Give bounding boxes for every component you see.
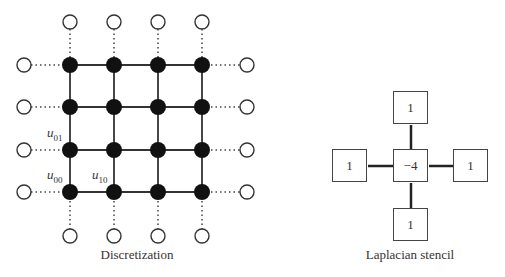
interior-node: [106, 184, 122, 200]
stencil-left: 1: [332, 149, 367, 182]
discretization-caption: Discretization: [101, 247, 174, 263]
boundary-node: [195, 229, 209, 243]
boundary-node: [151, 15, 165, 29]
boundary-node: [151, 229, 165, 243]
interior-node: [62, 99, 78, 115]
stencil-caption: Laplacian stencil: [366, 247, 454, 263]
boundary-node: [17, 100, 31, 114]
boundary-node: [17, 58, 31, 72]
interior-node: [106, 142, 122, 158]
diagram-canvas: [0, 0, 505, 277]
stencil-center: −4: [393, 149, 428, 182]
interior-node: [150, 142, 166, 158]
interior-node: [106, 57, 122, 73]
stencil-top: 1: [393, 91, 428, 124]
boundary-node: [107, 15, 121, 29]
boundary-node: [195, 15, 209, 29]
boundary-node: [240, 58, 254, 72]
interior-node: [62, 184, 78, 200]
label-u01: u01: [47, 125, 63, 143]
interior-node: [150, 184, 166, 200]
boundary-node: [63, 229, 77, 243]
boundary-node: [240, 185, 254, 199]
interior-node: [194, 99, 210, 115]
interior-node: [62, 57, 78, 73]
boundary-node: [107, 229, 121, 243]
label-u10: u10: [92, 167, 108, 185]
interior-node: [194, 142, 210, 158]
interior-node: [150, 99, 166, 115]
boundary-node: [17, 143, 31, 157]
interior-node: [194, 184, 210, 200]
boundary-node: [17, 185, 31, 199]
interior-node: [150, 57, 166, 73]
interior-node: [194, 57, 210, 73]
interior-node: [106, 99, 122, 115]
interior-node: [62, 142, 78, 158]
boundary-node: [240, 100, 254, 114]
stencil-bottom: 1: [393, 208, 428, 241]
stencil-right: 1: [453, 149, 488, 182]
boundary-node: [63, 15, 77, 29]
label-u00: u00: [47, 167, 63, 185]
boundary-node: [240, 143, 254, 157]
